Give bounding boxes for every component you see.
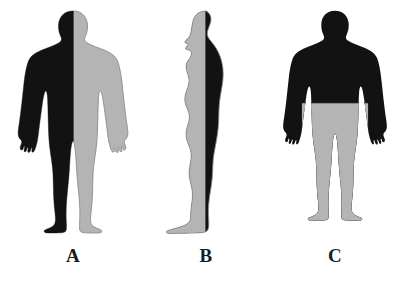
coronal-plane-line: [205, 8, 206, 236]
anatomical-planes-figure: A B: [0, 0, 404, 283]
figure-label-a: A: [0, 244, 146, 268]
figure-panel-a: A: [0, 0, 146, 283]
body-silhouette-b: [146, 8, 266, 236]
body-silhouette-a: [0, 8, 146, 236]
figure-label-c: C: [266, 244, 404, 268]
sagittal-plane-line: [72, 8, 73, 236]
figure-a-dark-half: [0, 8, 73, 236]
figure-panel-c: C: [266, 0, 404, 283]
body-silhouette-c: [266, 8, 404, 236]
transverse-plane-line: [302, 102, 368, 103]
figure-panel-b: B: [146, 0, 266, 283]
figure-b-light-half: [146, 8, 206, 236]
figure-label-b: B: [146, 244, 266, 268]
